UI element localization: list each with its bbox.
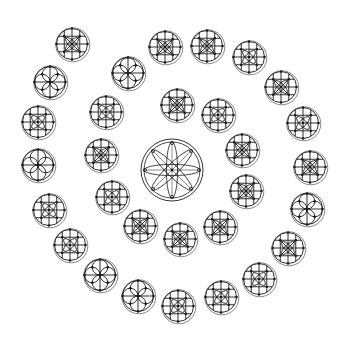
rosette-glyph — [83, 258, 118, 293]
rosette-glyph — [121, 279, 156, 314]
rosette-glyph — [264, 70, 299, 105]
rosette-glyph — [123, 209, 158, 244]
rosette-glyph — [290, 192, 325, 227]
rosette-glyph — [33, 65, 68, 100]
rosette-glyph — [271, 231, 306, 266]
rosette-glyph — [225, 133, 260, 168]
rosette-glyph — [32, 193, 67, 228]
rosette-glyph — [286, 106, 321, 141]
rosette-glyph — [84, 138, 119, 173]
rosette-glyph — [242, 262, 277, 297]
center-rosette-glyph — [141, 139, 203, 201]
rosette-glyph — [229, 174, 264, 209]
rosette-glyph — [55, 27, 90, 62]
rosette-glyph — [53, 228, 88, 263]
rosette-glyph — [89, 95, 124, 130]
rosette-glyph — [21, 105, 56, 140]
rosette-spiral-canvas — [0, 0, 345, 345]
rosette-glyph — [293, 150, 328, 185]
rosette-glyph — [204, 280, 239, 315]
rosette-glyph — [203, 210, 238, 245]
rosette-glyph — [21, 148, 56, 183]
rosette-glyph — [95, 180, 130, 215]
rosette-glyph — [160, 88, 195, 123]
spiral-rosette-diagram — [0, 0, 345, 345]
rosette-glyph — [190, 29, 225, 64]
rosette-glyph — [201, 98, 236, 133]
rosette-glyph — [111, 56, 146, 91]
rosette-glyph — [161, 289, 196, 324]
rosette-glyph — [232, 40, 267, 75]
rosette-glyph — [148, 30, 183, 65]
rosette-glyph — [163, 222, 198, 257]
